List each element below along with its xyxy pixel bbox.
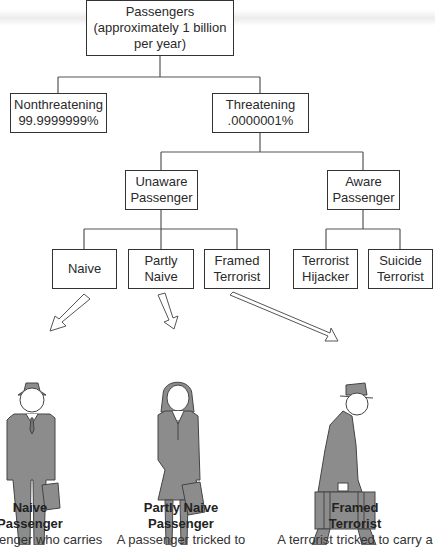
caption-naive-passenger: Naive Passenger A passenger who carries — [0, 500, 90, 548]
caption-framed-terrorist: Framed Terrorist A terrorist tricked to … — [270, 500, 435, 548]
caption-title: Terrorist — [270, 516, 435, 532]
caption-title: Passenger — [0, 516, 90, 532]
caption-partly-naive-passenger: Partly Naive Passenger A passenger trick… — [116, 500, 246, 548]
caption-title: Passenger — [116, 516, 246, 532]
caption-description: A terrorist tricked to carry a — [270, 532, 435, 548]
caption-description: A passenger who carries — [0, 532, 90, 548]
caption-description: A passenger tricked to — [116, 532, 246, 548]
caption-title: Framed — [270, 500, 435, 516]
caption-title: Partly Naive — [116, 500, 246, 516]
caption-title: Naive — [0, 500, 90, 516]
